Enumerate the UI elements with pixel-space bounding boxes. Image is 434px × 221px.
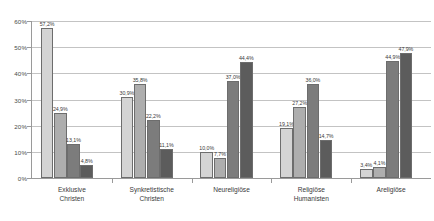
bar: [293, 107, 306, 178]
y-tick-label: 20%: [14, 122, 27, 129]
bar: [227, 81, 240, 178]
bar: [134, 84, 147, 178]
category-separator: [271, 178, 272, 183]
bar-group: 57,2%24,9%13,1%4,8%: [32, 21, 112, 178]
y-axis: 0%10%20%30%40%50%60%: [0, 0, 30, 221]
y-tick-label: 0%: [18, 175, 27, 182]
category-label: Exklusive Christen: [32, 185, 112, 203]
category-separator: [192, 178, 193, 183]
bar-value-label: 36,0%: [304, 77, 323, 83]
category-label: Areligiöse: [351, 185, 431, 194]
bar: [147, 120, 160, 178]
y-tick-label: 50%: [14, 44, 27, 51]
bar-group: 19,1%27,2%36,0%14,7%: [271, 21, 351, 178]
bar-value-label: 14,7%: [317, 133, 336, 139]
y-tick-label: 60%: [14, 18, 27, 25]
bar-groups: 57,2%24,9%13,1%4,8%30,9%35,8%22,2%11,1%1…: [32, 21, 431, 178]
category-separator: [112, 178, 113, 183]
bar-value-label: 11,1%: [157, 142, 176, 148]
bar: [160, 149, 173, 178]
bar: [80, 165, 93, 178]
bar: [121, 97, 134, 178]
bar-value-label: 13,1%: [64, 137, 83, 143]
bar-value-label: 22,2%: [144, 113, 163, 119]
bar: [214, 158, 227, 178]
bar-group: 30,9%35,8%22,2%11,1%: [112, 21, 192, 178]
bar-value-label: 35,8%: [131, 77, 150, 83]
category-label: Neureligiöse: [192, 185, 272, 194]
bar-value-label: 57,2%: [38, 21, 57, 27]
bar: [320, 140, 333, 178]
y-tick-label: 30%: [14, 96, 27, 103]
y-tick-label: 40%: [14, 70, 27, 77]
x-axis-labels: Exklusive ChristenSynkretistische Christ…: [32, 185, 431, 219]
bar-value-label: 24,9%: [51, 106, 70, 112]
bar-value-label: 4,8%: [77, 158, 96, 164]
bar: [360, 169, 373, 178]
bar: [54, 113, 67, 178]
bar: [41, 28, 54, 178]
bar-group: 10,0%7,7%37,0%44,4%: [192, 21, 272, 178]
bar: [280, 128, 293, 178]
bar: [240, 62, 253, 178]
bar: [386, 61, 399, 178]
bar-group: 3,4%4,1%44,9%47,9%: [351, 21, 431, 178]
category-separator: [351, 178, 352, 183]
bar: [307, 84, 320, 178]
bar: [373, 167, 386, 178]
bar-value-label: 47,9%: [397, 46, 416, 52]
category-label: Religiöse Humanisten: [271, 185, 351, 203]
bar-chart: 0%10%20%30%40%50%60% 57,2%24,9%13,1%4,8%…: [0, 0, 434, 221]
y-tick-label: 10%: [14, 148, 27, 155]
x-axis-line: [31, 178, 431, 179]
bar: [400, 53, 413, 178]
bar-value-label: 44,4%: [237, 55, 256, 61]
category-label: Synkretistische Christen: [112, 185, 192, 203]
